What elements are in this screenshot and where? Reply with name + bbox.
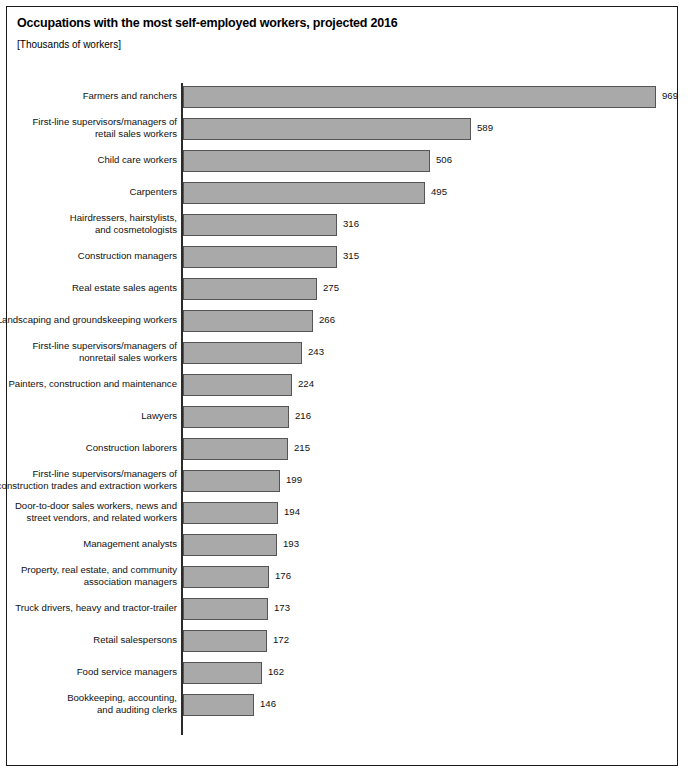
bar xyxy=(183,246,337,268)
bar-row: Bookkeeping, accounting, and auditing cl… xyxy=(7,689,677,721)
bar-category-label: First-line supervisors/managers of nonre… xyxy=(0,340,177,363)
bar-category-label: Carpenters xyxy=(0,186,177,198)
bar-value-label: 266 xyxy=(319,314,335,325)
bar-category-label: Retail salespersons xyxy=(0,634,177,646)
bar xyxy=(183,662,262,684)
bar-category-label: Farmers and ranchers xyxy=(0,90,177,102)
bar-row: Child care workers506 xyxy=(7,145,677,177)
bar-value-label: 176 xyxy=(275,570,291,581)
bar xyxy=(183,406,289,428)
bar-value-label: 495 xyxy=(431,186,447,197)
bar-category-label: Property, real estate, and community ass… xyxy=(0,564,177,587)
bar xyxy=(183,150,430,172)
bar-row: Door-to-door sales workers, news and str… xyxy=(7,497,677,529)
bar xyxy=(183,470,280,492)
bar-category-label: Real estate sales agents xyxy=(0,282,177,294)
bar-row: Lawyers216 xyxy=(7,401,677,433)
bar xyxy=(183,374,292,396)
bar-value-label: 194 xyxy=(284,506,300,517)
bar xyxy=(183,598,268,620)
bar-value-label: 193 xyxy=(283,538,299,549)
bar-category-label: Hairdressers, hairstylists, and cosmetol… xyxy=(0,212,177,235)
bar xyxy=(183,694,254,716)
bar-value-label: 316 xyxy=(343,218,359,229)
plot-area: Farmers and ranchers969First-line superv… xyxy=(7,81,677,741)
bar-row: Food service managers162 xyxy=(7,657,677,689)
bar xyxy=(183,534,277,556)
bar xyxy=(183,118,471,140)
bar-row: Management analysts193 xyxy=(7,529,677,561)
bar-row: Farmers and ranchers969 xyxy=(7,81,677,113)
bar-row: Painters, construction and maintenance22… xyxy=(7,369,677,401)
bar-category-label: First-line supervisors/managers of const… xyxy=(0,468,177,491)
bar-category-label: Management analysts xyxy=(0,538,177,550)
bar xyxy=(183,214,337,236)
bar-row: Hairdressers, hairstylists, and cosmetol… xyxy=(7,209,677,241)
bar-category-label: First-line supervisors/managers of retai… xyxy=(0,116,177,139)
bar xyxy=(183,310,313,332)
bar xyxy=(183,278,317,300)
bar-category-label: Painters, construction and maintenance xyxy=(0,378,177,390)
bar-category-label: Child care workers xyxy=(0,154,177,166)
bar-value-label: 506 xyxy=(436,154,452,165)
bar-value-label: 146 xyxy=(260,698,276,709)
bar-value-label: 199 xyxy=(286,474,302,485)
bar xyxy=(183,182,425,204)
bar-row: Landscaping and groundskeeping workers26… xyxy=(7,305,677,337)
bar-row: Real estate sales agents275 xyxy=(7,273,677,305)
bar-row: First-line supervisors/managers of const… xyxy=(7,465,677,497)
bar-value-label: 275 xyxy=(323,282,339,293)
chart-subtitle: [Thousands of workers] xyxy=(17,39,121,50)
bar-value-label: 315 xyxy=(343,250,359,261)
bar-category-label: Door-to-door sales workers, news and str… xyxy=(0,500,177,523)
bar-value-label: 173 xyxy=(274,602,290,613)
bar-category-label: Construction managers xyxy=(0,250,177,262)
bar-row: Truck drivers, heavy and tractor-trailer… xyxy=(7,593,677,625)
bar-value-label: 172 xyxy=(273,634,289,645)
bar-value-label: 215 xyxy=(294,442,310,453)
chart-figure: Occupations with the most self-employed … xyxy=(6,6,678,766)
bar-category-label: Construction laborers xyxy=(0,442,177,454)
chart-title: Occupations with the most self-employed … xyxy=(17,16,398,30)
bar xyxy=(183,502,278,524)
bar-value-label: 216 xyxy=(295,410,311,421)
bar-value-label: 243 xyxy=(308,346,324,357)
bar-category-label: Food service managers xyxy=(0,666,177,678)
bar-category-label: Landscaping and groundskeeping workers xyxy=(0,314,177,326)
bar-row: Construction managers315 xyxy=(7,241,677,273)
bar xyxy=(183,566,269,588)
bar-row: First-line supervisors/managers of retai… xyxy=(7,113,677,145)
bar-row: Construction laborers215 xyxy=(7,433,677,465)
bar-row: Property, real estate, and community ass… xyxy=(7,561,677,593)
bar xyxy=(183,630,267,652)
bar-category-label: Truck drivers, heavy and tractor-trailer xyxy=(0,602,177,614)
bar-category-label: Lawyers xyxy=(0,410,177,422)
bar-value-label: 224 xyxy=(298,378,314,389)
bar xyxy=(183,438,288,460)
bar xyxy=(183,86,656,108)
bar-value-label: 969 xyxy=(662,90,678,101)
bar-value-label: 162 xyxy=(268,666,284,677)
bar-row: Retail salespersons172 xyxy=(7,625,677,657)
bar-row: First-line supervisors/managers of nonre… xyxy=(7,337,677,369)
bar-category-label: Bookkeeping, accounting, and auditing cl… xyxy=(0,692,177,715)
bar-row: Carpenters495 xyxy=(7,177,677,209)
bar-value-label: 589 xyxy=(477,122,493,133)
bar xyxy=(183,342,302,364)
